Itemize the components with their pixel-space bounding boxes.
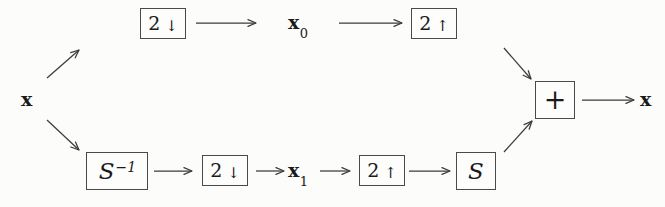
down-arrow-icon: ↓ [165,19,178,34]
output-signal-base: x [640,88,651,110]
plus-icon: + [544,86,567,113]
block-summing-junction[interactable]: + [535,81,575,119]
top-downsample-factor: 2 [148,14,160,33]
intermediate-label-x0: x0 [288,13,308,36]
block-top-downsample[interactable]: 2↓ [140,8,186,39]
arrow-bottom-to-adder [504,121,532,152]
s-inverse-symbol: S [99,160,115,183]
block-bottom-upsample[interactable]: 2↑ [359,155,405,186]
x0-base: x [288,11,299,33]
s-symbol: S [468,160,484,183]
intermediate-label-x1: x1 [288,161,308,184]
arrow-split-down [47,120,79,150]
arrow-split-up [47,50,79,78]
arrow-top-to-adder [504,48,531,79]
input-signal-label: x [21,90,32,109]
down-arrow-icon: ↓ [227,166,240,181]
input-signal-base: x [21,88,32,110]
x1-subscript: 1 [300,174,308,189]
bottom-upsample-factor: 2 [367,161,379,180]
up-arrow-icon: ↑ [436,19,449,34]
x1-base: x [288,159,299,181]
output-signal-label: x [640,90,651,109]
up-arrow-icon: ↑ [384,166,397,181]
bottom-downsample-factor: 2 [210,161,222,180]
block-s[interactable]: S [456,152,496,190]
s-inverse-exponent: −1 [116,160,137,174]
block-s-inverse[interactable]: S−1 [86,152,148,190]
block-bottom-downsample[interactable]: 2↓ [202,155,248,186]
x0-subscript: 0 [300,26,308,41]
block-top-upsample[interactable]: 2↑ [411,8,457,39]
top-upsample-factor: 2 [419,14,431,33]
filter-bank-diagram: x 2↓ x0 2↑ S−1 2↓ x1 2↑ S [0,0,665,207]
